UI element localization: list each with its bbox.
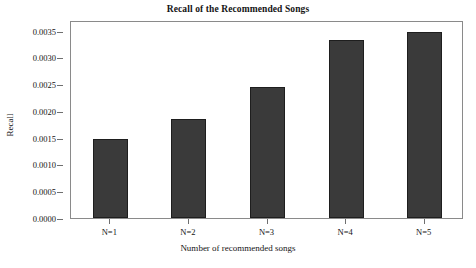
bar-n2 — [171, 119, 206, 218]
x-tick-label: N=4 — [338, 227, 353, 237]
x-tick-mark — [424, 219, 425, 224]
x-tick-label: N=1 — [102, 227, 117, 237]
x-tick-label: N=2 — [180, 227, 195, 237]
x-tick-mark — [188, 219, 189, 224]
bar-n4 — [329, 40, 364, 218]
chart-title: Recall of the Recommended Songs — [0, 4, 476, 14]
bar-n3 — [250, 87, 285, 218]
bar-n5 — [407, 32, 442, 218]
y-tick-label: 0.0015 — [33, 134, 56, 144]
y-tick-mark — [57, 58, 63, 59]
x-axis: Number of recommended songs N=1N=2N=3N=4… — [0, 219, 476, 268]
x-tick-mark — [109, 219, 110, 224]
y-tick-mark — [57, 85, 63, 86]
y-tick-label: 0.0005 — [33, 187, 56, 197]
y-axis-title: Recall — [5, 95, 15, 155]
y-tick-label: 0.0030 — [33, 53, 56, 63]
plot-area — [70, 21, 463, 219]
x-tick-label: N=3 — [259, 227, 274, 237]
y-tick-label: 0.0020 — [33, 107, 56, 117]
y-tick-mark — [57, 32, 63, 33]
y-tick-label: 0.0035 — [33, 27, 56, 37]
x-tick-mark — [267, 219, 268, 224]
bars-layer — [71, 22, 462, 218]
y-tick-mark — [57, 139, 63, 140]
bar-chart-figure: Recall of the Recommended Songs Recall 0… — [0, 0, 476, 268]
y-tick-mark — [57, 112, 63, 113]
x-tick-label: N=5 — [416, 227, 431, 237]
bar-n1 — [93, 139, 128, 218]
y-tick-label: 0.0010 — [33, 160, 56, 170]
y-tick-mark — [57, 192, 63, 193]
y-tick-label: 0.0025 — [33, 80, 56, 90]
x-tick-mark — [345, 219, 346, 224]
x-axis-title: Number of recommended songs — [0, 243, 476, 253]
y-tick-mark — [57, 165, 63, 166]
